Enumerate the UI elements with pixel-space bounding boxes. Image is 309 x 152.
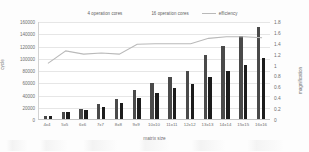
y-axis-tick-label-left: 20000 <box>2 105 35 110</box>
y-axis-tick-label-right: 1.2 <box>274 52 294 57</box>
legend-item-4-operation-cores: 4 operation cores <box>72 11 123 16</box>
x-axis-tick-label: 6x6 <box>74 122 92 130</box>
x-axis-tick-label: 12x12 <box>181 122 199 130</box>
y-axis-tick-label-left: 160000 <box>2 20 35 25</box>
efficiency-line-series <box>39 22 271 120</box>
legend-item-16-operation-cores: 16 operation cores <box>135 11 188 16</box>
x-axis-ticks: 4x45x56x67x78x89x910x1011x1112x1213x1314… <box>38 122 270 130</box>
legend-swatch-bar-icon <box>72 11 85 15</box>
y-axis-tick-label-left: 100000 <box>2 56 35 61</box>
y-axis-tick-label-right: 1.8 <box>274 20 294 25</box>
x-axis-tick-label: 16x16 <box>252 122 270 130</box>
legend-label: 4 operation cores <box>88 10 123 16</box>
scan-artifact <box>0 140 309 151</box>
y-axis-tick-label-left: 140000 <box>2 32 35 37</box>
x-axis-tick-label: 14x14 <box>216 122 234 130</box>
x-axis-tick-label: 13x13 <box>199 122 217 130</box>
x-axis-tick-label: 7x7 <box>92 122 110 130</box>
y-axis-tick-label-right: 0.8 <box>274 74 294 79</box>
legend-label: efficiency <box>219 10 238 16</box>
chart-legend: 4 operation cores 16 operation cores eff… <box>0 7 309 19</box>
chart-figure: 4 operation cores 16 operation cores eff… <box>0 0 309 152</box>
x-axis-tick-label: 15x15 <box>234 122 252 130</box>
x-axis-tick-label: 10x10 <box>145 122 163 130</box>
y-axis-tick-label-left: 80000 <box>2 69 35 74</box>
y-axis-tick-label-right: 0.6 <box>274 85 294 90</box>
y-axis-tick-label-left: 120000 <box>2 44 35 49</box>
y-axis-tick-label-left: 0 <box>2 118 35 123</box>
legend-swatch-line-icon <box>202 13 216 14</box>
y-axis-tick-label-right: 1.6 <box>274 30 294 35</box>
x-axis-tick-label: 4x4 <box>38 122 56 130</box>
y-axis-tick-label-left: 40000 <box>2 93 35 98</box>
y-axis-tick-label-right: 0.2 <box>274 107 294 112</box>
y-axis-tick-label-left: 60000 <box>2 81 35 86</box>
y-axis-tick-label-right: 1.4 <box>274 41 294 46</box>
legend-swatch-bar-icon <box>135 11 148 15</box>
x-axis-tick-label: 11x11 <box>163 122 181 130</box>
plot-area <box>38 22 270 120</box>
y-axis-label-right: magnification <box>298 67 303 94</box>
legend-item-efficiency: efficiency <box>202 11 238 16</box>
y-axis-tick-label-right: 0 <box>274 118 294 123</box>
y-axis-tick-label-right: 1 <box>274 63 294 68</box>
x-axis-tick-label: 5x5 <box>56 122 74 130</box>
y-axis-tick-label-right: 0.4 <box>274 96 294 101</box>
x-axis-tick-label: 9x9 <box>127 122 145 130</box>
x-axis-label: matrix size <box>0 136 309 141</box>
x-axis-tick-label: 8x8 <box>109 122 127 130</box>
legend-label: 16 operation cores <box>151 10 188 16</box>
